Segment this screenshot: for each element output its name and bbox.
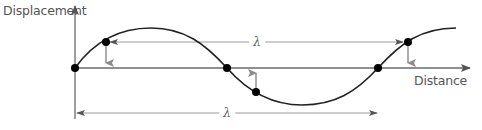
x-axis-label: Distance [414,73,467,88]
y-axis-label: Displacement [3,3,87,18]
point-rising-2 [404,38,412,46]
point-falling [252,88,260,96]
point-zero-middle [223,64,231,72]
lower-wavelength-label: λ [219,107,235,119]
point-zero-2 [374,64,382,72]
point-origin [71,64,79,72]
wave-diagram [0,0,482,130]
upper-wavelength-label: λ [249,36,265,48]
wave-curve [75,28,456,105]
point-rising-1 [102,38,110,46]
